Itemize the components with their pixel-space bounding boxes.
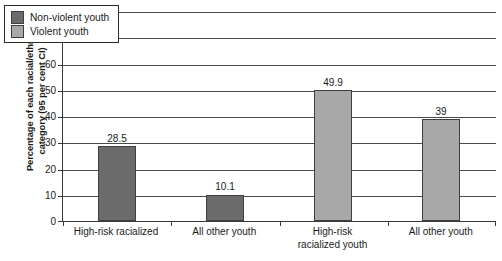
gridline: [63, 38, 496, 39]
bar-non-violent-all-other-youth[interactable]: [206, 195, 244, 222]
y-tick-label: 30: [30, 138, 56, 148]
gridline: [63, 91, 496, 92]
x-tick-mark: [495, 221, 496, 226]
x-axis-labels: High-risk racialized All other youth Hig…: [62, 226, 495, 260]
bar-value-label: 49.9: [303, 78, 363, 88]
legend-item-non-violent-youth[interactable]: Non-violent youth: [11, 10, 109, 24]
y-tick-mark: [58, 170, 63, 171]
bar-chart: Percentage of each racial/ethnic categor…: [0, 0, 502, 261]
y-tick-label: 0: [30, 217, 56, 227]
x-axis-category-label: High-risk racialized youth: [279, 226, 387, 251]
x-axis-category-label-line: racialized youth: [279, 239, 387, 252]
bar-violent-all-other-youth[interactable]: [422, 119, 460, 221]
x-axis-category-label: High-risk racialized: [62, 226, 170, 239]
x-axis-category-label-line: High-risk racialized: [62, 226, 170, 239]
y-tick-label: 50: [30, 86, 56, 96]
gridline: [63, 12, 496, 13]
plot-area: 28.5 10.1 49.9 39: [62, 12, 495, 222]
legend-swatch-icon: [11, 11, 24, 24]
x-axis-category-label-line: All other youth: [387, 226, 495, 239]
legend-swatch-icon: [11, 25, 24, 38]
bar-value-label: 10.1: [195, 182, 255, 192]
x-axis-category-label: All other youth: [170, 226, 278, 239]
legend-label: Non-violent youth: [30, 12, 109, 23]
legend-item-violent-youth[interactable]: Violent youth: [11, 24, 109, 38]
y-tick-mark: [58, 65, 63, 66]
x-axis-category-label: All other youth: [387, 226, 495, 239]
y-tick-mark: [58, 143, 63, 144]
bar-value-label: 28.5: [87, 134, 147, 144]
y-tick-label: 40: [30, 112, 56, 122]
legend: Non-violent youth Violent youth: [4, 5, 119, 43]
y-tick-mark: [58, 196, 63, 197]
y-tick-label: 20: [30, 165, 56, 175]
bar-non-violent-high-risk-racialized[interactable]: [98, 146, 136, 221]
y-tick-label: 60: [30, 60, 56, 70]
bar-value-label: 39: [411, 107, 471, 117]
x-axis-category-label-line: All other youth: [170, 226, 278, 239]
y-tick-mark: [58, 91, 63, 92]
y-tick-label: 10: [30, 191, 56, 201]
x-axis-category-label-line: High-risk: [279, 226, 387, 239]
bar-violent-high-risk-racialized-youth[interactable]: [314, 90, 352, 221]
gridline: [63, 65, 496, 66]
legend-label: Violent youth: [30, 26, 89, 37]
y-tick-mark: [58, 117, 63, 118]
